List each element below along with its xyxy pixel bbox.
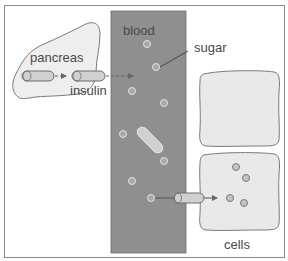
- insulin-molecule-released: [72, 71, 105, 81]
- cell-bottom: [200, 153, 280, 231]
- cell-top: [200, 71, 280, 147]
- blood-label: blood: [123, 24, 155, 37]
- insulin-label: insulin: [70, 84, 107, 97]
- diagram-canvas: [0, 0, 288, 261]
- sugar-label: sugar: [194, 41, 227, 54]
- cells-label: cells: [224, 238, 250, 251]
- insulin-molecule-pancreas: [22, 71, 54, 81]
- insulin-molecule-membrane: [174, 193, 204, 203]
- pancreas-label: pancreas: [30, 51, 83, 64]
